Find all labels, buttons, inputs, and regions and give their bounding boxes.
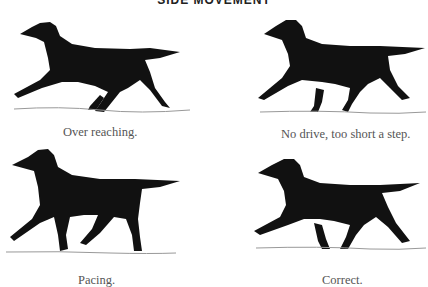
caption-correct: Correct. [322,273,363,287]
dog-illustration-icon [230,145,428,260]
caption-over-reaching: Over reaching. [63,125,137,140]
figure-no-drive [230,10,428,120]
caption-no-drive: No drive, too short a step. [281,127,411,142]
figure-pacing [0,145,200,260]
dog-illustration-icon [0,10,200,120]
figure-over-reaching [0,10,200,120]
dog-illustration-icon [230,10,428,120]
figure-correct [230,145,428,260]
dog-illustration-icon [0,145,200,260]
caption-pacing: Pacing. [78,273,115,287]
page-title: SIDE MOVEMENT [0,0,428,7]
